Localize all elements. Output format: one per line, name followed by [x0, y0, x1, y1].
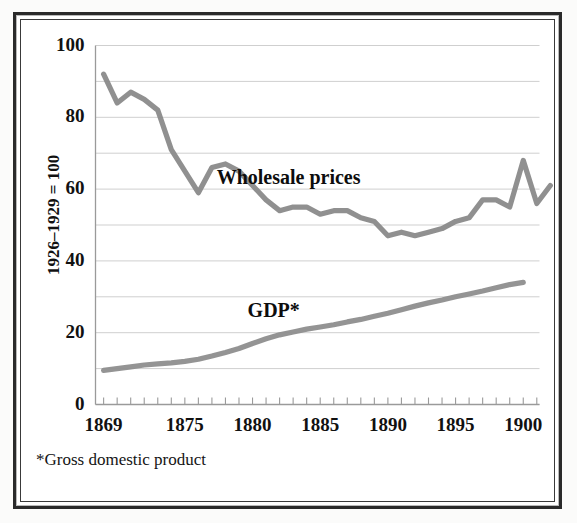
chart-stage: 020406080100 186918751880188518901895190…	[0, 0, 577, 523]
series-label-gdp: GDP*	[248, 299, 300, 322]
x-tick-label-1900: 1900	[488, 414, 558, 436]
x-tick-label-1875: 1875	[150, 414, 220, 436]
series-label-wholesale-prices: Wholesale prices	[217, 166, 361, 189]
y-tick-label-100: 100	[25, 34, 85, 56]
gridlines-group	[96, 46, 540, 405]
x-tick-label-1869: 1869	[69, 414, 139, 436]
figure-root: 020406080100 186918751880188518901895190…	[0, 0, 577, 523]
y-tick-label-80: 80	[25, 105, 85, 127]
x-tick-label-1890: 1890	[353, 414, 423, 436]
x-tick-label-1885: 1885	[285, 414, 355, 436]
y-axis-title: 1926–1929 = 100	[44, 155, 64, 275]
y-tick-label-20: 20	[25, 321, 85, 343]
x-tick-label-1880: 1880	[218, 414, 288, 436]
x-tick-label-1895: 1895	[421, 414, 491, 436]
y-tick-label-0: 0	[25, 393, 85, 415]
series-lines-group	[104, 74, 551, 370]
x-axis-ticks-group	[104, 398, 537, 405]
series-line-wholesale-prices	[104, 74, 551, 236]
chart-footnote: *Gross domestic product	[36, 450, 206, 470]
series-line-gdp	[104, 282, 524, 370]
line-chart-canvas	[0, 0, 577, 523]
